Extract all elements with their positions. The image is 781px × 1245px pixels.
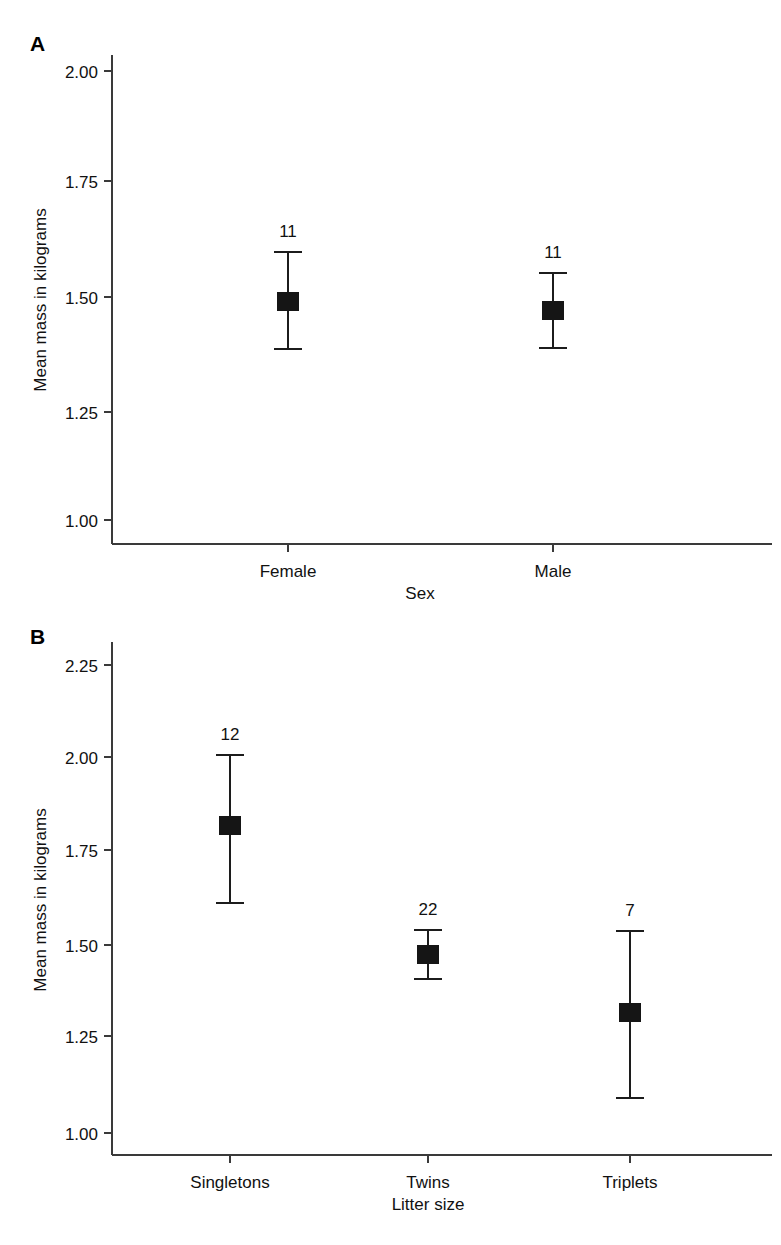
panel-b-x-tick-label-triplets: Triplets [602, 1173, 657, 1192]
panel-b-datapoint-triplets: 7 [616, 901, 644, 1098]
panel-a-plot: Mean mass in kilograms 2.00 1.75 1.50 1.… [0, 0, 781, 600]
panel-b: B Mean mass in kilograms 2.25 2.00 1.75 … [0, 600, 781, 1245]
panel-a-count-label-female: 11 [279, 222, 297, 241]
panel-b-y-tick-label-0: 2.25 [65, 657, 98, 676]
panel-b-count-label-singletons: 12 [221, 725, 240, 744]
panel-a-y-tick-label-1: 1.75 [65, 173, 98, 192]
panel-a-y-tick-label-2: 1.50 [65, 289, 98, 308]
panel-a-y-tick-label-3: 1.25 [65, 404, 98, 423]
panel-a-count-label-male: 11 [544, 243, 562, 262]
panel-b-y-ticks [104, 665, 112, 1133]
panel-b-y-tick-label-3: 1.50 [65, 937, 98, 956]
panel-a-datapoint-female: 11 [274, 222, 302, 349]
panel-b-plot: Mean mass in kilograms 2.25 2.00 1.75 1.… [0, 600, 781, 1245]
panel-a: A Mean mass in kilograms 2.00 1.75 1.50 … [0, 0, 781, 600]
panel-b-y-tick-label-2: 1.75 [65, 842, 98, 861]
panel-a-datapoint-male: 11 [539, 243, 567, 348]
panel-a-y-tick-label-0: 2.00 [65, 63, 98, 82]
panel-b-y-tick-label-1: 2.00 [65, 749, 98, 768]
figure-container: A Mean mass in kilograms 2.00 1.75 1.50 … [0, 0, 781, 1245]
panel-b-datapoint-twins: 22 [414, 900, 442, 979]
panel-a-x-tick-label-female: Female [260, 562, 317, 581]
panel-b-y-tick-label-5: 1.00 [65, 1125, 98, 1144]
panel-b-x-axis-title: Litter size [392, 1195, 465, 1214]
panel-b-y-tick-label-4: 1.25 [65, 1028, 98, 1047]
panel-b-x-ticks [230, 1155, 630, 1163]
panel-b-x-tick-label-twins: Twins [406, 1173, 449, 1192]
panel-a-x-tick-label-male: Male [535, 562, 572, 581]
panel-b-y-axis-title: Mean mass in kilograms [31, 808, 50, 991]
panel-b-count-label-triplets: 7 [625, 901, 634, 920]
panel-b-datapoint-singletons: 12 [216, 725, 244, 903]
panel-a-x-ticks [288, 544, 553, 552]
panel-a-y-axis-title: Mean mass in kilograms [31, 208, 50, 391]
panel-a-y-tick-label-4: 1.00 [65, 512, 98, 531]
panel-a-y-ticks [104, 71, 112, 520]
panel-b-count-label-twins: 22 [419, 900, 438, 919]
panel-b-x-tick-label-singletons: Singletons [190, 1173, 269, 1192]
